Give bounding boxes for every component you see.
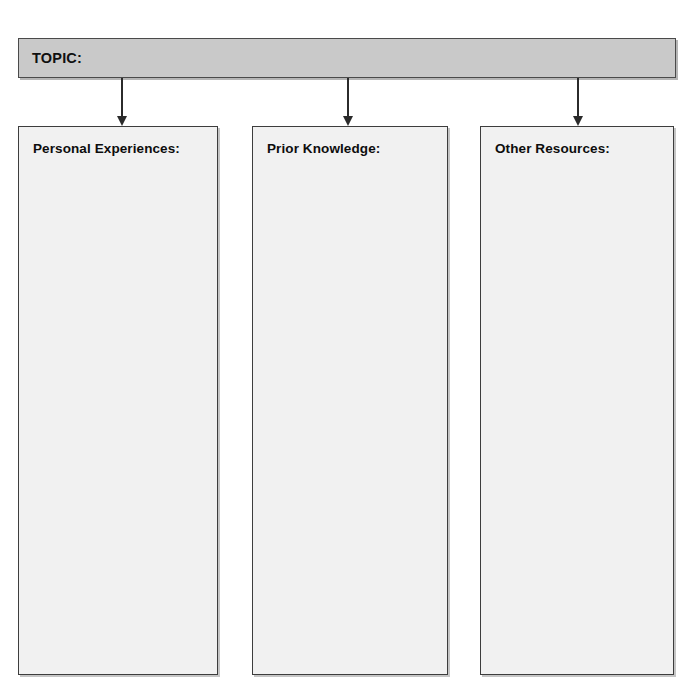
arrow-stem (347, 78, 349, 118)
graphic-organizer-sheet: TOPIC: Personal Experiences: Prior Knowl… (0, 0, 696, 696)
arrow-head (573, 116, 583, 126)
arrow-head (117, 116, 127, 126)
column-header-label: Other Resources: (495, 141, 610, 156)
topic-bar[interactable]: TOPIC: (18, 38, 676, 78)
column-header-label: Prior Knowledge: (267, 141, 380, 156)
topic-label: TOPIC: (32, 50, 82, 66)
down-arrow-icon (573, 78, 584, 126)
down-arrow-icon (117, 78, 128, 126)
column-writing-area[interactable] (481, 171, 673, 674)
column-header-label: Personal Experiences: (33, 141, 180, 156)
arrow-stem (121, 78, 123, 118)
column-writing-area[interactable] (19, 171, 217, 674)
arrow-stem (577, 78, 579, 118)
column-personal-experiences[interactable]: Personal Experiences: (18, 126, 218, 675)
column-writing-area[interactable] (253, 171, 447, 674)
arrow-head (343, 116, 353, 126)
column-prior-knowledge[interactable]: Prior Knowledge: (252, 126, 448, 675)
column-other-resources[interactable]: Other Resources: (480, 126, 674, 675)
down-arrow-icon (343, 78, 354, 126)
